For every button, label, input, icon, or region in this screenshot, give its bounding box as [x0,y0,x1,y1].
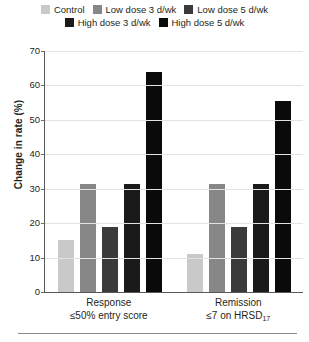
legend-swatch-icon [184,5,193,14]
gridline [45,85,303,86]
y-tick-label: 20 [29,218,40,228]
x-group-label-line2: ≤50% entry score [44,309,174,322]
bar [209,184,225,292]
legend-item-control: Control [41,4,85,15]
bar-group [45,51,174,292]
gridline [45,223,303,224]
bar-group [174,51,303,292]
y-tick-label: 60 [29,81,40,91]
plot-area-wrapper: Change in rate (%) 706050403020100 [0,47,309,297]
y-tick-label: 40 [29,150,40,160]
legend-item-label: Low dose 3 d/wk [106,4,177,15]
chart-legend: ControlLow dose 3 d/wkLow dose 5 d/wk Hi… [0,4,309,30]
y-tick-label: 10 [29,253,40,263]
bar [102,227,118,292]
legend-item-high-dose-5-d-wk: High dose 5 d/wk [159,17,245,28]
bar [187,254,203,292]
legend-item-low-dose-3-d-wk: Low dose 3 d/wk [93,4,177,15]
plot-area [44,51,303,293]
bottom-divider [18,333,297,334]
legend-swatch-icon [93,5,102,14]
legend-swatch-icon [41,5,50,14]
legend-item-label: Control [54,4,85,15]
y-tick-label: 0 [35,287,40,297]
bar [80,184,96,292]
x-group-label-line1: Remission [215,297,262,308]
x-axis-group-label: Remission≤7 on HRSD17 [174,296,304,323]
gridline [45,51,303,52]
bar [253,184,269,292]
gridline [45,120,303,121]
legend-swatch-icon [159,18,168,27]
legend-item-high-dose-3-d-wk: High dose 3 d/wk [65,17,151,28]
legend-swatch-icon [65,18,74,27]
bar [275,101,291,292]
legend-item-label: High dose 3 d/wk [78,17,151,28]
x-group-label-subscript: 17 [262,315,270,322]
legend-row-2: High dose 3 d/wkHigh dose 5 d/wk [6,17,303,28]
y-tick-label: 70 [29,46,40,56]
x-group-label-line1: Response [86,297,131,308]
bar [124,184,140,292]
bars-container [45,51,303,292]
gridline [45,258,303,259]
y-axis-ticks: 706050403020100 [14,47,44,292]
bar [58,240,74,292]
bar [231,227,247,292]
y-tick-label: 30 [29,184,40,194]
x-axis-group-label: Response≤50% entry score [44,296,174,323]
gridline [45,154,303,155]
legend-item-label: Low dose 5 d/wk [197,4,268,15]
legend-item-label: High dose 5 d/wk [172,17,245,28]
x-axis-labels: Response≤50% entry scoreRemission≤7 on H… [44,296,303,323]
y-tick-label: 50 [29,115,40,125]
bar [146,72,162,292]
legend-item-low-dose-5-d-wk: Low dose 5 d/wk [184,4,268,15]
gridline [45,189,303,190]
legend-row-1: ControlLow dose 3 d/wkLow dose 5 d/wk [6,4,303,15]
bar-chart-figure: ControlLow dose 3 d/wkLow dose 5 d/wk Hi… [0,0,309,342]
x-group-label-line2: ≤7 on HRSD17 [174,309,304,323]
